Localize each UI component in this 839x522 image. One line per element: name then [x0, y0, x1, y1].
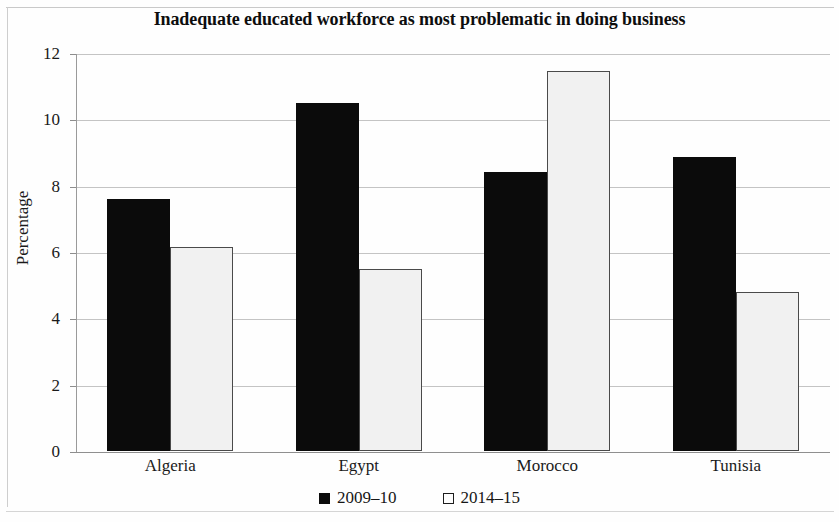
legend-label: 2014–15 — [461, 488, 521, 508]
bar-tunisia-2014-15 — [736, 292, 799, 451]
legend-entry-2: 2014–15 — [443, 488, 521, 508]
bar-egypt-2014-15 — [359, 269, 422, 451]
y-axis-line — [76, 54, 77, 453]
y-axis-tick-label: 8 — [20, 178, 60, 195]
y-axis-tick-label: 12 — [20, 45, 60, 62]
y-axis-tick-labels: 024681012 — [16, 54, 60, 454]
bar-egypt-2009-10 — [296, 103, 359, 451]
gridline — [76, 54, 830, 55]
chart-figure: Inadequate educated workforce as most pr… — [0, 0, 839, 522]
bar-algeria-2014-15 — [170, 247, 233, 451]
page-border-top — [6, 7, 834, 8]
chart-legend: 2009–102014–15 — [0, 488, 839, 508]
y-axis-tick-label: 2 — [20, 377, 60, 394]
bar-algeria-2009-10 — [107, 199, 170, 451]
filled-square-icon — [319, 493, 330, 504]
legend-entry-1: 2009–10 — [319, 488, 397, 508]
gridline — [76, 120, 830, 121]
bar-tunisia-2009-10 — [673, 157, 736, 451]
legend-label: 2009–10 — [337, 488, 397, 508]
y-axis-tick-label: 4 — [20, 310, 60, 327]
bar-morocco-2014-15 — [547, 71, 610, 451]
x-axis-label-morocco: Morocco — [453, 456, 642, 476]
x-axis-label-tunisia: Tunisia — [642, 456, 831, 476]
x-axis-label-egypt: Egypt — [265, 456, 454, 476]
hollow-square-icon — [443, 493, 454, 504]
chart-title: Inadequate educated workforce as most pr… — [0, 9, 839, 30]
y-axis-tick-label: 6 — [20, 244, 60, 261]
plot-area — [76, 54, 830, 452]
x-axis-label-algeria: Algeria — [76, 456, 265, 476]
x-axis-line — [76, 452, 830, 453]
page-border-bottom — [6, 511, 834, 512]
y-axis-tick-label: 0 — [20, 443, 60, 460]
bar-morocco-2009-10 — [484, 172, 547, 451]
x-axis-category-labels: AlgeriaEgyptMoroccoTunisia — [76, 456, 830, 482]
y-axis-tick-label: 10 — [20, 111, 60, 128]
page-border-left — [7, 7, 8, 507]
